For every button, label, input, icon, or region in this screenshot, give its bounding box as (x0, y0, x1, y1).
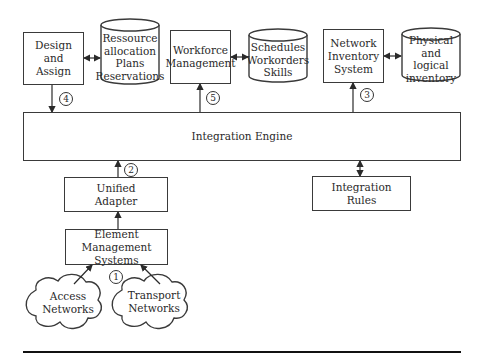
inventory-db-label: Physical and logical inventory (402, 38, 460, 80)
integration-engine-label: Integration Engine (192, 130, 293, 143)
network-inventory-box: Network Inventory System (323, 29, 384, 83)
step-marker-3: 3 (360, 88, 374, 102)
network-inventory-label: Network Inventory System (328, 37, 379, 76)
workforce-label: Workforce Management (165, 44, 235, 70)
unified-adapter-box: Unified Adapter (64, 177, 168, 212)
step-marker-1: 1 (109, 270, 123, 284)
access-networks-label: Access Networks (38, 290, 98, 316)
workforce-box: Workforce Management (170, 30, 231, 84)
integration-rules-label: Integration Rules (331, 181, 391, 207)
unified-adapter-label: Unified Adapter (95, 182, 138, 208)
step-marker-2: 2 (124, 163, 138, 177)
design-assign-label: Design and Assign (35, 39, 72, 78)
transport-networks-label: Transport Networks (124, 289, 184, 315)
design-assign-box: Design and Assign (23, 32, 84, 85)
integration-rules-box: Integration Rules (312, 176, 411, 211)
step-marker-5: 5 (206, 91, 220, 105)
ems-box: Element Management Systems (65, 229, 168, 265)
integration-engine-box: Integration Engine (23, 112, 461, 161)
ems-label: Element Management Systems (66, 228, 167, 267)
schedules-db-label: Schedules Workorders Skills (249, 39, 307, 81)
step-marker-4: 4 (59, 92, 73, 106)
resource-db-label: Ressource allocation Plans Reservations (101, 30, 159, 84)
